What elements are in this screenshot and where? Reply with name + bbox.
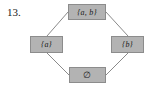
node-empty-set: ∅ [69,67,106,83]
edge-right-to-top [106,12,128,36]
node-set-b: {b} [111,36,144,53]
node-set-a-b: {a, b} [68,4,106,20]
edge-bottom-to-right [106,53,128,75]
node-set-a: {a} [30,36,63,53]
edge-bottom-to-left [47,53,69,75]
edge-left-to-top [47,12,68,36]
hasse-diagram-figure: 13. {a, b} {a} {b} ∅ [0,0,148,86]
